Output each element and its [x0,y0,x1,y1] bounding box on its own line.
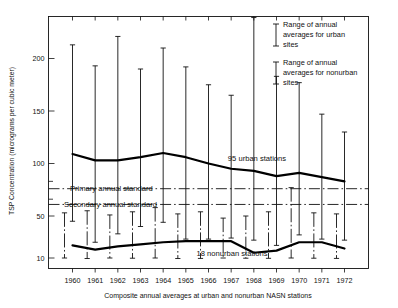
x-tick-label: 1961 [87,276,103,285]
legend-nonurban-line1: Range of annual [283,58,338,67]
legend-urban-line2: averages for urban [283,30,345,39]
y-tick-label: 50 [37,212,45,221]
y-axis-title: TSP Concentration (micrograms per cubic … [8,67,16,215]
y-tick-label: 100 [33,159,45,168]
x-tick-label: 1969 [269,276,285,285]
legend-urban-line3: sites [283,40,299,49]
secondary-standard-label: Secondary annual standard [64,200,157,209]
x-tick-label: 1968 [246,276,262,285]
x-tick-label: 1966 [201,276,217,285]
x-tick-label: 1970 [291,276,307,285]
x-axis-caption: Composite annual averages at urban and n… [104,292,312,300]
urban-series-label: 95 urban stations [228,154,286,163]
legend-nonurban-line2: averages for nonurban [283,68,357,77]
x-tick-label: 1964 [155,276,171,285]
chart-figure: 1050100150200 19601961196219631964196519… [0,0,398,308]
nonurban-series-label: 18 nonurban stations [197,249,268,258]
tsp-concentration-chart: 1050100150200 19601961196219631964196519… [0,0,398,308]
y-tick-label: 150 [33,107,45,116]
y-tick-label: 200 [33,54,45,63]
x-tick-label: 1972 [337,276,353,285]
y-tick-label: 10 [37,254,45,263]
x-tick-label: 1962 [110,276,126,285]
x-tick-label: 1967 [223,276,239,285]
legend-urban-line1: Range of annual [283,20,338,29]
x-tick-label: 1960 [65,276,81,285]
x-tick-label: 1963 [133,276,149,285]
x-tick-label: 1965 [178,276,194,285]
x-tick-label: 1971 [314,276,330,285]
legend-nonurban-line3: sites [283,78,299,87]
primary-standard-label: Primary annual standard [70,184,153,193]
chart-background [0,0,398,308]
